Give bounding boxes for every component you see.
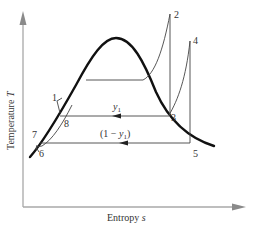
- flow-label-y1: y1: [112, 101, 121, 114]
- reheat-3-4: [169, 41, 190, 115]
- flow-arrow-icon: [112, 114, 121, 119]
- point-label-5: 5: [193, 148, 198, 159]
- point-label-8: 8: [64, 118, 69, 129]
- saturation-dome: [30, 38, 214, 157]
- point-label-6: 6: [39, 148, 44, 159]
- ts-diagram: 1 2 3 4 5 6 7 8 y1 (1 − y1) Temperature …: [0, 0, 259, 227]
- axes: [20, 11, 247, 211]
- point-label-7: 7: [32, 129, 37, 140]
- flow-arrow-icon: [119, 141, 128, 146]
- point-label-1: 1: [52, 92, 57, 103]
- flow-label-one-minus-y1: (1 − y1): [100, 128, 130, 141]
- x-axis-label: Entropy s: [107, 212, 146, 223]
- point-label-2: 2: [174, 9, 179, 20]
- y-axis-arrow-icon: [20, 11, 27, 25]
- x-axis-arrow-icon: [232, 204, 246, 211]
- point-label-3: 3: [171, 112, 176, 123]
- y-axis-label: Temperature T: [5, 90, 16, 150]
- point-label-4: 4: [193, 35, 198, 46]
